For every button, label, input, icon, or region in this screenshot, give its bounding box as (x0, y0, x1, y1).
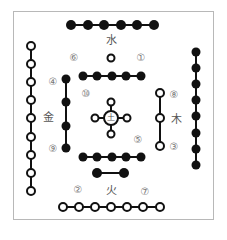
element-earth-label: 土 (107, 114, 115, 122)
number-1-label: ① (137, 53, 146, 63)
element-wood-label: 木 (171, 114, 182, 125)
number-10-label: ⑩ (82, 89, 91, 99)
number-7-label: ⑦ (141, 187, 150, 197)
element-water-label: 水 (106, 35, 117, 46)
number-9-label: ⑨ (49, 144, 58, 154)
element-metal-label: 金 (43, 112, 54, 123)
number-4-label: ④ (49, 77, 58, 87)
number-8-label: ⑧ (170, 90, 179, 100)
number-2-label: ② (74, 185, 83, 195)
element-fire-label: 火 (106, 185, 117, 196)
number-6-label: ⑥ (70, 53, 79, 63)
number-5-label: ⑤ (134, 135, 143, 145)
number-3-label: ③ (170, 142, 179, 152)
west-outer-yang-dots (27, 42, 35, 195)
north-inner-yang-dot (108, 55, 115, 62)
